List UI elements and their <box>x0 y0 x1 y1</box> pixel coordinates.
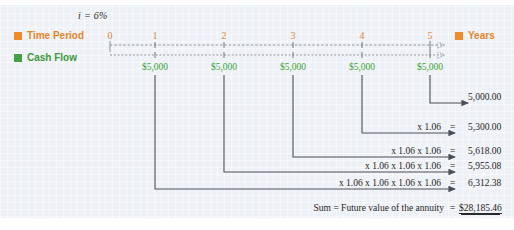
compounded-value-row-3: 5,618.00 <box>468 146 501 156</box>
diagram-text-layer: 01$5,0002$5,0003$5,0004$5,0005$5,0005,00… <box>0 0 514 230</box>
equals-sign-row-2: = <box>450 122 455 132</box>
compounding-formula-row-2: x 1.06 <box>417 122 441 132</box>
period-number-3: 3 <box>291 30 296 41</box>
period-number-5: 5 <box>428 30 433 41</box>
period-number-2: 2 <box>222 30 227 41</box>
period-number-0: 0 <box>108 30 113 41</box>
summary-equals: = <box>450 203 455 213</box>
period-number-1: 1 <box>153 30 158 41</box>
compounded-value-row-4: 5,955.08 <box>468 161 501 171</box>
period-number-4: 4 <box>360 30 365 41</box>
equals-sign-row-5: = <box>450 178 455 188</box>
cash-flow-amount-period-2: $5,000 <box>211 62 237 72</box>
compounded-value-row-2: 5,300.00 <box>468 122 501 132</box>
compounded-value-row-1: 5,000.00 <box>468 92 501 102</box>
cash-flow-amount-period-4: $5,000 <box>349 62 375 72</box>
compounding-formula-row-4: x 1.06 x 1.06 x 1.06 <box>365 161 441 171</box>
compounding-formula-row-5: x 1.06 x 1.06 x 1.06 x 1.06 <box>339 178 441 188</box>
annuity-future-value-figure: i = 6% Time Period Cash Flow Years 01$5,… <box>0 0 514 230</box>
cash-flow-amount-period-1: $5,000 <box>142 62 168 72</box>
equals-sign-row-4: = <box>450 161 455 171</box>
summary-label: Sum = Future value of the annuity <box>314 203 444 213</box>
compounding-formula-row-3: x 1.06 x 1.06 <box>391 146 441 156</box>
equals-sign-row-3: = <box>450 146 455 156</box>
cash-flow-amount-period-5: $5,000 <box>417 62 443 72</box>
cash-flow-amount-period-3: $5,000 <box>280 62 306 72</box>
compounded-value-row-5: 6,312.38 <box>468 178 501 188</box>
future-value-total: $28,185.46 <box>459 203 502 214</box>
